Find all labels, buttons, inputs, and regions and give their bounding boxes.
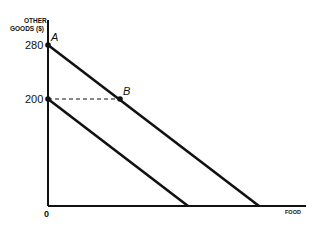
- y-tick-200: 200: [25, 93, 43, 105]
- y-tick-280: 280: [25, 39, 43, 51]
- inner-budget-line: [48, 99, 188, 206]
- origin-label: 0: [44, 209, 49, 219]
- point-200-marker: [45, 96, 51, 102]
- x-axis-label: FOOD: [285, 209, 301, 215]
- point-b-label: B: [123, 85, 130, 97]
- y-axis-label-line1: OTHER: [24, 17, 47, 24]
- point-a-marker: [45, 42, 51, 48]
- budget-line-chart: OTHER GOODS ($) 280 200 0 FOOD A B: [0, 0, 313, 230]
- y-axis-label-line2: GOODS ($): [10, 25, 44, 33]
- point-b-marker: [117, 96, 123, 102]
- outer-budget-line: [48, 45, 259, 206]
- point-a-label: A: [50, 31, 58, 43]
